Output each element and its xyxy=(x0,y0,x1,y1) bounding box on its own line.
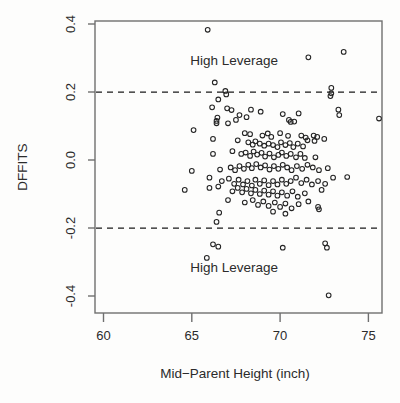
data-point xyxy=(331,175,336,180)
data-point xyxy=(189,169,194,174)
x-axis-ticks xyxy=(104,313,369,322)
data-point xyxy=(272,200,277,205)
data-point xyxy=(211,137,216,142)
data-point xyxy=(325,166,330,171)
data-point xyxy=(285,165,290,170)
data-point xyxy=(226,198,231,203)
data-point xyxy=(275,193,280,198)
data-point xyxy=(295,141,300,146)
data-point xyxy=(263,163,268,168)
data-point xyxy=(214,220,219,225)
data-point xyxy=(212,80,217,85)
data-point xyxy=(280,177,285,182)
dffits-leverage-scatter-figure: DFFITS Mid−Parent Height (inch) 0.4 0.2 … xyxy=(0,0,400,403)
data-point xyxy=(217,210,222,215)
data-point xyxy=(211,242,216,247)
data-point xyxy=(266,192,271,197)
y-tick-label-3: -0.2 xyxy=(63,217,78,239)
data-point xyxy=(271,189,276,194)
data-point xyxy=(312,139,317,144)
data-point xyxy=(249,166,254,171)
data-point xyxy=(280,190,285,195)
y-tick-label-2: 0.0 xyxy=(63,151,78,169)
data-point xyxy=(235,186,240,191)
data-point xyxy=(326,293,331,298)
data-point xyxy=(256,203,261,208)
data-point xyxy=(284,181,289,186)
data-point xyxy=(313,155,318,160)
data-point xyxy=(299,181,304,186)
data-point xyxy=(218,167,223,172)
data-point xyxy=(304,177,309,182)
data-point xyxy=(227,176,232,181)
data-point xyxy=(295,194,300,199)
data-point xyxy=(300,166,305,171)
data-point xyxy=(301,144,306,149)
x-tick-label-0: 60 xyxy=(96,328,110,343)
y-tick-label-0: 0.4 xyxy=(63,15,78,33)
data-point xyxy=(257,181,262,186)
data-point xyxy=(242,166,247,171)
data-point xyxy=(245,179,250,184)
data-point xyxy=(377,116,382,121)
data-point xyxy=(228,165,233,170)
data-point xyxy=(336,107,341,112)
data-point xyxy=(271,209,276,214)
y-tick-label-4: -0.4 xyxy=(63,285,78,307)
data-point xyxy=(236,177,241,182)
y-axis-ticks xyxy=(88,24,95,296)
data-point xyxy=(241,182,246,187)
data-point xyxy=(235,138,240,143)
annotation-high-leverage-upper: High Leverage xyxy=(190,53,278,68)
data-point xyxy=(275,182,280,187)
data-point xyxy=(323,181,328,186)
data-point xyxy=(257,192,262,197)
data-point xyxy=(248,154,253,159)
data-point xyxy=(319,188,324,193)
data-point xyxy=(230,189,235,194)
data-point xyxy=(242,200,247,205)
data-point xyxy=(283,211,288,216)
data-point xyxy=(237,164,242,169)
data-point xyxy=(266,204,271,209)
data-point xyxy=(250,198,255,203)
data-point xyxy=(306,55,311,60)
data-point xyxy=(280,162,285,167)
data-point xyxy=(296,111,301,116)
data-point xyxy=(288,179,293,184)
data-point xyxy=(260,133,265,138)
data-point xyxy=(258,109,263,114)
data-point xyxy=(305,162,310,167)
data-point xyxy=(267,167,272,172)
data-point xyxy=(216,244,221,249)
data-point xyxy=(302,156,307,161)
data-point xyxy=(243,150,248,155)
x-axis-title: Mid−Parent Height (inch) xyxy=(160,366,310,381)
data-point xyxy=(280,150,285,155)
data-point xyxy=(279,140,284,145)
data-point xyxy=(211,152,216,157)
data-point xyxy=(254,162,259,167)
data-point xyxy=(216,184,221,189)
data-point xyxy=(310,182,315,187)
data-point xyxy=(278,205,283,210)
data-point xyxy=(276,166,281,171)
data-point xyxy=(316,179,321,184)
data-point xyxy=(249,107,254,112)
x-tick-label-2: 70 xyxy=(273,328,287,343)
data-point xyxy=(271,179,276,184)
data-point xyxy=(298,152,303,157)
data-points-group xyxy=(182,27,381,297)
data-point xyxy=(291,145,296,150)
data-point xyxy=(232,181,237,186)
data-point xyxy=(317,168,322,173)
y-axis-tick-labels: 0.4 0.2 0.0 -0.2 -0.4 xyxy=(63,15,78,307)
data-point xyxy=(289,206,294,211)
data-point xyxy=(289,168,294,173)
data-point xyxy=(285,193,290,198)
data-point xyxy=(329,86,334,91)
data-point xyxy=(207,175,212,180)
data-point xyxy=(242,131,247,136)
data-point xyxy=(207,186,212,191)
data-point xyxy=(210,105,215,110)
